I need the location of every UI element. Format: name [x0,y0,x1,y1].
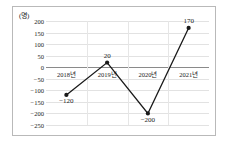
data-point-label: 20 [104,52,111,60]
chart-container: (명) 200150100500−50−100−150−200−250 2018… [12,6,216,136]
x-axis-tick-label: 2018년 [57,69,76,79]
y-axis-tick-label: 100 [14,41,44,48]
x-axis-tick-label: 2021년 [179,69,198,79]
y-axis-tick-label: −250 [14,122,44,129]
y-axis-tick-label: −50 [14,75,44,82]
y-axis-tick-label: 150 [14,29,44,36]
data-point-marker [187,26,191,30]
x-axis-tick-label: 2020년 [138,69,157,79]
data-point-label: −200 [141,116,155,124]
plot-area: 2018년2019년2020년2021년 −12020−200170 [46,21,209,125]
y-axis-tick-label: 200 [14,18,44,25]
y-axis-tick-labels: 200150100500−50−100−150−200−250 [13,21,44,125]
y-axis-tick-label: −150 [14,98,44,105]
series-line [66,28,188,114]
gridline [46,125,209,126]
x-axis-tick-label: 2019년 [98,69,117,79]
data-point-marker [146,111,150,115]
data-point-label: 170 [183,17,194,25]
y-axis-tick-label: 50 [14,52,44,59]
y-axis-tick-label: 0 [14,64,44,71]
y-axis-tick-label: −100 [14,87,44,94]
data-point-marker [105,61,109,65]
data-point-label: −120 [59,97,73,105]
y-axis-tick-label: −200 [14,110,44,117]
data-point-marker [64,93,68,97]
